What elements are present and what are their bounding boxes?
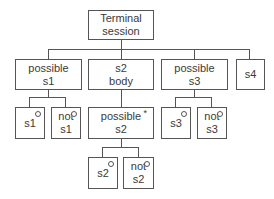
circle-marker-icon (108, 161, 114, 167)
connector-possible-s1-down (48, 89, 49, 97)
connector-possible-s2-down (121, 138, 122, 147)
connector-to-s2 (102, 147, 103, 157)
node-label: s4 (245, 68, 257, 81)
connector-to-s2-body (121, 49, 122, 59)
node-s4: s4 (236, 59, 265, 90)
circle-marker-icon (71, 111, 77, 117)
node-not-s2: not s2 (123, 157, 154, 189)
node-label: Terminal (100, 12, 142, 25)
connector-to-possible-s3 (194, 49, 195, 59)
connector-s1-bar (29, 97, 66, 98)
node-s1: s1 (15, 107, 45, 139)
circle-marker-icon (144, 161, 150, 167)
asterisk-marker-icon: * (143, 109, 147, 118)
node-possible-s1: possible s1 (15, 59, 82, 90)
node-label: s2 (133, 173, 145, 186)
connector-s2-bar (102, 147, 139, 148)
connector-to-not-s1 (65, 97, 66, 107)
node-label: possible (174, 62, 214, 75)
node-possible-s3: possible s3 (161, 59, 228, 90)
node-label: s3 (170, 117, 182, 130)
node-s3: s3 (161, 107, 191, 139)
node-terminal-session: Terminal session (88, 10, 154, 40)
node-label: s2 (115, 123, 127, 136)
node-s2-body: s2 body (88, 59, 154, 90)
connector-to-possible-s1 (48, 49, 49, 59)
connector-to-s4 (249, 49, 250, 59)
node-label: s2 (97, 167, 109, 180)
connector-level1-bar (48, 49, 250, 50)
node-label: s1 (24, 117, 36, 130)
node-not-s1: not s1 (51, 107, 81, 139)
node-label: body (109, 75, 133, 88)
connector-root-down (121, 39, 122, 49)
connector-s2-body-down (121, 89, 122, 107)
connector-s3-bar (175, 97, 212, 98)
node-label: possible (101, 110, 141, 123)
node-not-s3: not s3 (197, 107, 227, 139)
circle-marker-icon (217, 111, 223, 117)
connector-to-s3 (175, 97, 176, 107)
connector-to-not-s2 (138, 147, 139, 157)
circle-marker-icon (181, 111, 187, 117)
node-s2: s2 (88, 157, 118, 189)
node-label: s3 (189, 75, 201, 88)
node-label: s1 (60, 123, 72, 136)
connector-to-s1 (29, 97, 30, 107)
node-label: s1 (43, 75, 55, 88)
node-possible-s2: * possible s2 (88, 107, 154, 139)
node-label: s3 (206, 123, 218, 136)
connector-possible-s3-down (194, 89, 195, 97)
node-label: s2 (115, 62, 127, 75)
node-label: possible (28, 62, 68, 75)
circle-marker-icon (35, 111, 41, 117)
node-label: session (102, 25, 139, 38)
connector-to-not-s3 (211, 97, 212, 107)
